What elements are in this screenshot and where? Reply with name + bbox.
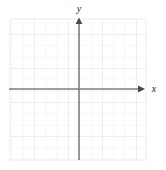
- coordinate-grid-figure: x y: [0, 0, 166, 170]
- coordinate-plane-svg: x y: [0, 0, 166, 170]
- y-axis-label: y: [76, 3, 82, 14]
- x-axis-label: x: [151, 83, 157, 94]
